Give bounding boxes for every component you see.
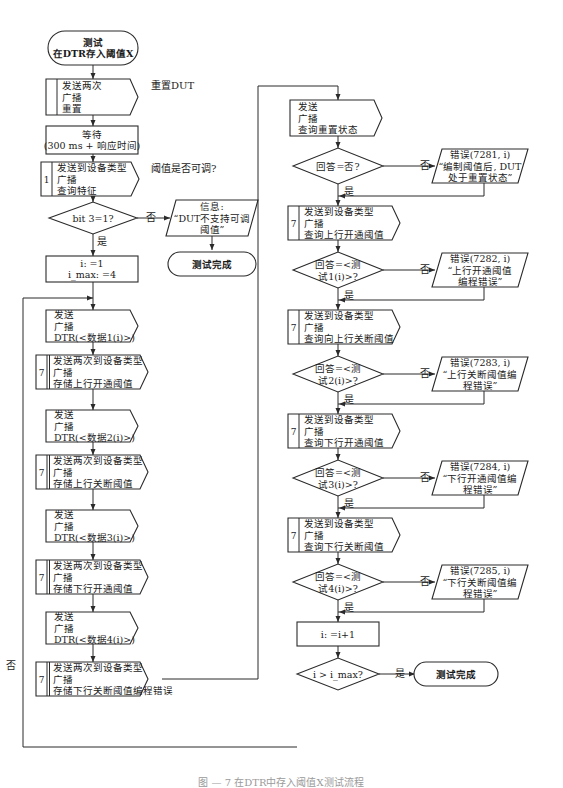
label-line: DTR(<数据1(i)>) (54, 332, 135, 343)
label: 否 (420, 576, 430, 587)
label-line: 回答=<测 (315, 571, 361, 582)
command-index: 1 (44, 175, 50, 185)
label-line: 存储上行关断阈值 (53, 478, 133, 489)
label-line: 广播 (57, 174, 77, 185)
edge-label-no: 否 (420, 368, 430, 379)
label: 是 (97, 236, 107, 247)
label: 否 (6, 660, 16, 671)
label-line: 发送两次到设备类型 (53, 662, 143, 673)
arrow-head-icon (336, 142, 341, 148)
arrow-head-icon (91, 304, 96, 310)
label-line: “编制阈值后, DUT (439, 161, 523, 172)
label-line: “DUT不支持可调 (174, 213, 251, 224)
label-line: “下行开通阈值编 (443, 473, 518, 484)
edge-label-no: 否 (146, 212, 156, 223)
edge-label-yes: 是 (395, 668, 405, 679)
arrow-head-icon (91, 120, 96, 126)
label-line: 试3(i)>? (318, 479, 358, 490)
label-line: 重置 (62, 103, 82, 114)
label-line: 错误(7282, i) (450, 253, 511, 264)
label-line: 广播 (62, 92, 82, 103)
error-box-7281: 错误(7281, i)“编制阈值后, DUT处于重置状态” (432, 149, 528, 183)
command-index: 7 (39, 468, 45, 478)
label: 重置DUT (151, 79, 194, 91)
connector-line (338, 495, 484, 508)
label-line: 发送 (54, 409, 74, 420)
label-line: 发送 (54, 509, 74, 520)
label-line: 查询上行开通阈值 (304, 229, 384, 240)
label-line: 广播 (54, 521, 74, 532)
edge-label-no: 否 (420, 472, 430, 483)
label-line: 编程错误” (458, 276, 503, 287)
arrow-head-icon (336, 652, 341, 658)
query-threshold-4: 7发送到设备类型广播查询下行关断阈值 (288, 518, 400, 552)
answer-decision-5: 回答=<测试4(i)>? (293, 564, 383, 600)
loop-step-6: 7发送两次到设备类型广播存储下行开通阈值 (36, 560, 148, 594)
label-line: 发送 (298, 101, 318, 112)
label: 否 (420, 368, 430, 379)
command-index: 7 (39, 368, 45, 378)
label-line: 发送到设备类型 (304, 518, 374, 529)
label-line: 广播 (54, 623, 74, 634)
edge-label-yes: 是 (344, 498, 354, 509)
label-line: 发送 (54, 309, 74, 320)
arrow-head-icon (336, 454, 341, 460)
label-line: 等待 (82, 129, 102, 140)
loop-step-2: 7发送两次到设备类型广播存储上行开通阈值 (36, 355, 148, 389)
label-line: 查询特征 (57, 185, 97, 196)
label-line: 错误(7285, i) (450, 565, 511, 576)
end-unsupported-terminal: 测试完成 (168, 252, 256, 276)
loop-decision: i > i_max? (297, 658, 379, 690)
flowchart: 测试在DTR存入阈值X发送两次广播重置重置DUT等待(300 ms + 响应时间… (0, 0, 563, 788)
label-line: 错误(7283, i) (450, 357, 511, 368)
query-reset-command: 发送广播查询重置状态 (290, 100, 382, 136)
label-line: 测试 (83, 37, 103, 48)
label-line: DTR(<数据4(i)>) (54, 634, 135, 645)
label-line: 发送两次到设备类型 (53, 355, 143, 366)
label-line: i > i_max? (313, 669, 363, 681)
edge-label-no: 否 (420, 264, 430, 275)
label: 是 (344, 602, 354, 613)
query-features-command: 1发送到设备类型广播查询特征 (41, 162, 139, 196)
label-line: 程错误” (463, 588, 498, 599)
label-line: 试2(i)>? (318, 375, 358, 386)
connector-line (338, 287, 484, 300)
label-line: 广播 (53, 572, 73, 583)
label-line: i: =1 (80, 258, 103, 269)
connector-line (338, 599, 484, 612)
error-box-7283: 错误(7283, i)“上行关断阈值编程错误” (432, 357, 528, 391)
arrow-head-icon (91, 504, 96, 510)
arrow-head-icon (91, 196, 96, 202)
query-threshold-3: 7发送到设备类型广播查询下行开通阈值 (288, 414, 400, 448)
connector-line (338, 391, 484, 404)
label-line: 查询重置状态 (298, 124, 358, 135)
column-connector-line (162, 86, 338, 679)
info-unsupported: 信息:“DUT不支持可调阈值” (166, 200, 258, 236)
error-box-7282: 错误(7282, i)“上行开通阈值编程错误” (432, 253, 528, 287)
label-line: bit 3=1? (72, 213, 113, 224)
label-line: 查询下行开通阈值 (304, 437, 384, 448)
error-box-7284: 错误(7284, i)“下行开通阈值编程错误” (432, 461, 528, 495)
label-line: “下行关断阈值编 (443, 577, 518, 588)
command-index: 7 (39, 675, 45, 685)
label-line: 存储上行开通阈值 (53, 378, 133, 389)
label-line: i_max: =4 (68, 269, 116, 281)
label-line: “上行开通阈值 (448, 265, 513, 276)
label: 阈值是否可调? (151, 162, 216, 174)
edge-label-no: 否 (420, 576, 430, 587)
label-line: 发送两次 (62, 80, 102, 91)
loop-step-4: 7发送两次到设备类型广播存储上行关断阈值 (36, 455, 148, 489)
init-box: i: =1i_max: =4 (46, 256, 138, 282)
label-line: 回答=<测 (315, 467, 361, 478)
label-line: 错误(7281, i) (450, 149, 511, 160)
label-line: DTR(<数据3(i)>) (54, 532, 135, 543)
query-features-note: 阈值是否可调? (151, 162, 216, 174)
label-line: 发送到设备类型 (304, 310, 374, 321)
answer-decision-2: 回答=<测试1(i)>? (293, 252, 383, 288)
label-line: 回答=否? (316, 161, 359, 172)
edge-label-no: 否 (420, 160, 430, 171)
label-line: 存储下行开通阈值 (53, 583, 133, 594)
label-line: 发送到设备类型 (304, 206, 374, 217)
reset-command: 发送两次广播重置 (46, 79, 138, 115)
arrow-head-icon (336, 558, 341, 564)
